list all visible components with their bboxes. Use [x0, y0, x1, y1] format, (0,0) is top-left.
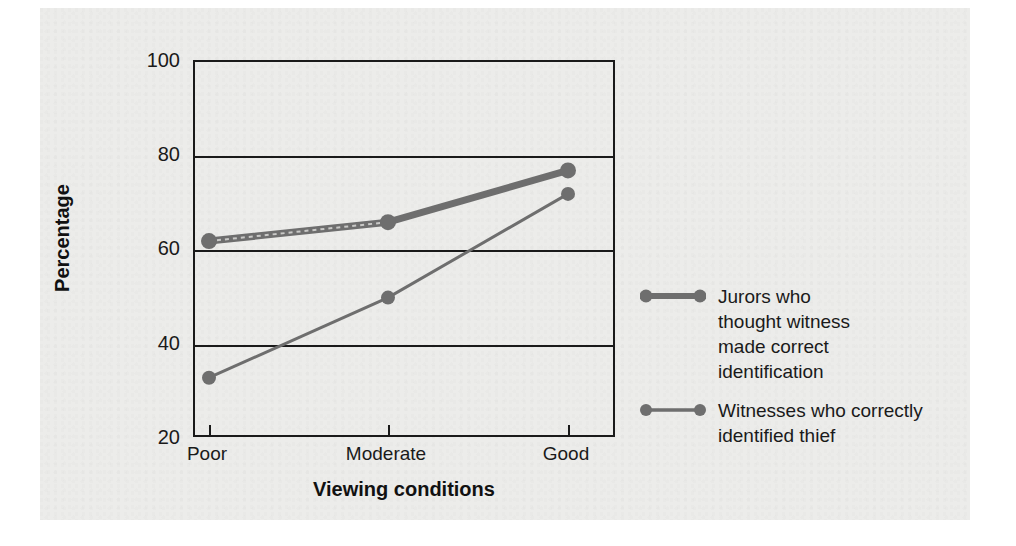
legend-key-thin-line-icon [640, 399, 706, 421]
x-axis-tick-labels: Poor Moderate Good [193, 443, 615, 471]
point-witnesses-poor [202, 371, 216, 385]
point-jurors-poor [201, 233, 217, 249]
legend: Jurors who thought witness made correct … [640, 284, 960, 462]
legend-item-jurors: Jurors who thought witness made correct … [640, 284, 960, 384]
series-jurors-line [209, 170, 568, 241]
y-axis-tick-labels: 100 80 60 40 20 [118, 60, 180, 437]
y-tick-40: 40 [158, 332, 180, 355]
y-tick-60: 60 [158, 237, 180, 260]
y-axis-title: Percentage [51, 184, 74, 292]
x-label-good: Good [543, 443, 589, 465]
point-jurors-moderate [380, 214, 396, 230]
point-jurors-good [560, 162, 576, 178]
y-tick-100: 100 [147, 49, 180, 72]
x-label-poor: Poor [187, 443, 227, 465]
series-jurors-dash-overlay [209, 222, 388, 241]
legend-item-witnesses: Witnesses who correctly identified thief [640, 398, 960, 448]
y-tick-80: 80 [158, 143, 180, 166]
x-axis-title: Viewing conditions [193, 478, 615, 501]
plot-area [193, 60, 615, 437]
point-witnesses-good [561, 187, 575, 201]
legend-key-thick-line-icon [640, 285, 706, 307]
x-label-moderate: Moderate [346, 443, 426, 465]
point-witnesses-moderate [381, 291, 395, 305]
figure: 100 80 60 40 20 [0, 0, 1016, 546]
series-jurors [201, 162, 576, 249]
y-tick-20: 20 [158, 426, 180, 449]
series-layer [195, 62, 617, 439]
legend-label-jurors: Jurors who thought witness made correct … [718, 284, 850, 384]
legend-label-witnesses: Witnesses who correctly identified thief [718, 398, 923, 448]
